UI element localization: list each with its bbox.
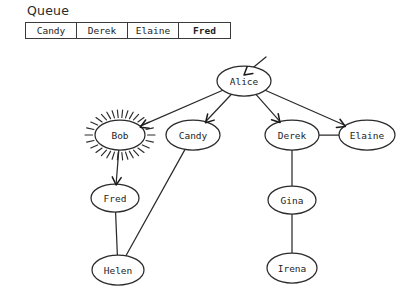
highlight-ray [101,114,106,120]
highlight-ray [146,141,153,143]
node-gina[interactable]: Gina [268,186,316,214]
node-elaine[interactable]: Elaine [339,120,395,150]
node-label: Elaine [350,130,385,141]
node-label: Candy [179,130,208,141]
highlight-ray [107,151,111,157]
highlight-ray [134,114,139,120]
highlight-ray [112,111,114,118]
highlight-ray [117,110,118,117]
highlight-ray [87,128,94,130]
edge-alice-elaine [265,90,345,125]
edge-alice-derek [256,94,280,121]
highlight-ray [117,152,118,159]
highlight-ray [101,150,106,156]
arrowhead-alice-candy [206,114,215,123]
graph-svg: AliceBobCandyDerekElaineFredGinaHelenIre… [0,0,411,297]
node-label: Helen [104,265,133,276]
node-label: Alice [230,76,259,87]
highlight-ray [91,145,98,148]
highlight-ray [91,122,98,125]
highlight-ray [122,152,123,159]
highlight-ray [107,112,111,118]
node-label: Gina [281,195,304,206]
node-label: Derek [278,130,307,141]
node-alice[interactable]: Alice [217,66,271,96]
node-irena[interactable]: Irena [267,253,317,283]
highlight-ray [126,152,128,159]
node-label: Fred [104,193,127,204]
edge-alice-candy [206,94,232,121]
node-label: Bob [111,130,128,141]
node-derek[interactable]: Derek [265,120,319,150]
highlight-ray [122,110,123,117]
highlight-ray [138,118,144,122]
highlight-ray [96,118,102,122]
edge-fred-helen [116,212,118,255]
graph-canvas: Queue CandyDerekElaineFred AliceBobCandy… [0,0,411,297]
highlight-ray [96,148,102,152]
node-helen[interactable]: Helen [92,255,144,285]
highlight-ray [142,145,149,148]
highlight-ray [138,148,144,152]
highlight-ray [129,112,133,118]
highlight-ray [129,151,133,157]
highlight-ray [87,141,94,143]
node-label: Irena [278,263,307,274]
node-layer: AliceBobCandyDerekElaineFredGinaHelenIre… [91,66,395,285]
highlight-ray [126,111,128,118]
node-fred[interactable]: Fred [91,184,139,212]
highlight-ray [112,152,114,159]
node-bob[interactable]: Bob [95,120,145,150]
node-candy[interactable]: Candy [166,120,220,150]
highlight-ray [134,150,139,156]
